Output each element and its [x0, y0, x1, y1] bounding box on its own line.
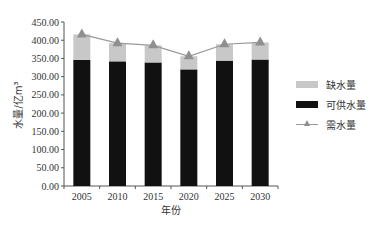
bar-segment	[216, 61, 233, 186]
x-axis-label: 年份	[161, 204, 181, 216]
y-axis-label: 水量/亿m³	[12, 81, 24, 128]
y-tick-label: 50.00	[37, 162, 60, 173]
triangle-marker-icon	[77, 28, 87, 37]
triangle-marker-icon	[255, 36, 265, 45]
bars	[73, 34, 268, 186]
supply-swatch-icon	[296, 101, 318, 108]
bar-segment	[73, 60, 90, 186]
x-tick-label: 2020	[179, 191, 199, 202]
triangle-line-icon	[296, 121, 318, 128]
triangle-marker-icon	[220, 38, 230, 47]
demand-line	[77, 28, 265, 59]
legend-label: 需水量	[326, 117, 356, 132]
bar-segment	[145, 62, 162, 186]
y-tick-label: 450.00	[32, 17, 60, 28]
y-tick-label: 300.00	[32, 71, 60, 82]
legend-item-demand: 需水量	[296, 114, 366, 134]
bar-segment	[109, 61, 126, 186]
shortage-swatch-icon	[296, 81, 318, 88]
y-tick-label: 150.00	[32, 126, 60, 137]
legend-item-supply: 可供水量	[296, 94, 366, 114]
x-tick-label: 2005	[72, 191, 92, 202]
y-tick-label: 250.00	[32, 89, 60, 100]
bar-segment	[252, 60, 269, 186]
x-tick-label: 2025	[215, 191, 235, 202]
legend: 缺水量 可供水量 需水量	[296, 74, 366, 134]
legend-label: 缺水量	[326, 77, 356, 92]
y-axis: 0.0050.00100.00150.00200.00250.00300.003…	[32, 17, 65, 192]
bar-segment	[180, 69, 197, 186]
triangle-marker-icon	[148, 39, 158, 48]
y-tick-label: 400.00	[32, 35, 60, 46]
y-tick-label: 200.00	[32, 108, 60, 119]
x-tick-label: 2030	[250, 191, 270, 202]
x-axis: 200520102015202020252030	[64, 186, 278, 202]
x-tick-label: 2015	[143, 191, 163, 202]
legend-item-shortage: 缺水量	[296, 74, 366, 94]
triangle-marker-icon	[113, 37, 123, 46]
y-tick-label: 0.00	[42, 181, 60, 192]
y-tick-label: 350.00	[32, 53, 60, 64]
y-tick-label: 100.00	[32, 144, 60, 155]
bar-segment	[73, 34, 90, 60]
x-tick-label: 2010	[108, 191, 128, 202]
legend-label: 可供水量	[326, 97, 366, 112]
